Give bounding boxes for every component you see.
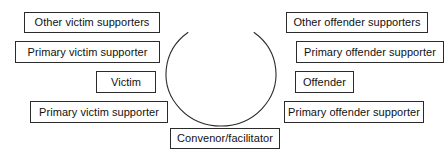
- node-label: Other victim supporters: [35, 17, 150, 28]
- node-convenor-facilitator: Convenor/facilitator: [170, 128, 280, 149]
- node-label: Victim: [111, 77, 141, 88]
- node-label: Primary victim supporter: [28, 47, 148, 58]
- node-primary-offender-supporter-lower: Primary offender supporter: [284, 101, 424, 123]
- node-label: Primary victim supporter: [39, 107, 159, 118]
- restorative-justice-seating-diagram: Other victim supporters Primary victim s…: [0, 0, 448, 158]
- node-primary-victim-supporter-lower: Primary victim supporter: [30, 101, 168, 123]
- node-other-offender-supporters: Other offender supporters: [286, 12, 428, 33]
- node-label: Primary offender supporter: [288, 107, 420, 118]
- node-offender: Offender: [295, 71, 354, 93]
- node-primary-offender-supporter-upper: Primary offender supporter: [296, 41, 444, 63]
- node-label: Other offender supporters: [293, 17, 420, 28]
- circle-arc-path: [166, 32, 276, 126]
- node-label: Primary offender supporter: [304, 47, 436, 58]
- node-label: Convenor/facilitator: [177, 133, 273, 144]
- node-victim: Victim: [96, 71, 156, 93]
- node-label: Offender: [303, 77, 346, 88]
- node-other-victim-supporters: Other victim supporters: [24, 12, 160, 33]
- node-primary-victim-supporter-upper: Primary victim supporter: [15, 41, 160, 63]
